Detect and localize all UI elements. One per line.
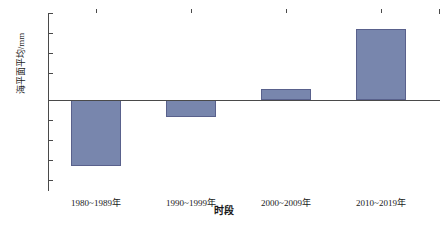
bar-1980-1989	[71, 100, 121, 166]
y-tick-mark-60	[49, 33, 53, 34]
plot-area: 1980~1989年 1990~1999年 2000~2009年 2010~20…	[48, 13, 440, 191]
y-tick-mark-n60	[49, 160, 53, 161]
x-axis-title: 时段	[0, 202, 448, 217]
y-axis-title: 海平面平均/mm	[14, 4, 27, 124]
x-axis-end-tick	[439, 9, 440, 14]
x-tick-mark-4	[381, 9, 382, 13]
bar-2000-2009	[261, 89, 311, 100]
y-tick-mark-20	[49, 73, 53, 74]
zero-baseline	[48, 100, 440, 101]
x-tick-mark-2	[191, 9, 192, 13]
bar-2010-2019	[356, 29, 406, 100]
y-tick-mark-n20	[49, 120, 53, 121]
y-tick-mark-n40	[49, 140, 53, 141]
y-tick-mark-40	[49, 53, 53, 54]
x-tick-mark-1	[96, 9, 97, 13]
figure-container: 海平面平均/mm 80 60 40 20 0 -20 -40 -60 -80 1…	[0, 0, 448, 229]
x-tick-mark-3	[286, 9, 287, 13]
y-tick-mark-80	[49, 13, 53, 14]
y-tick-mark-n80	[49, 180, 53, 181]
bar-1990-1999	[166, 100, 216, 117]
figure-caption	[0, 222, 448, 229]
y-axis-line	[48, 13, 49, 191]
